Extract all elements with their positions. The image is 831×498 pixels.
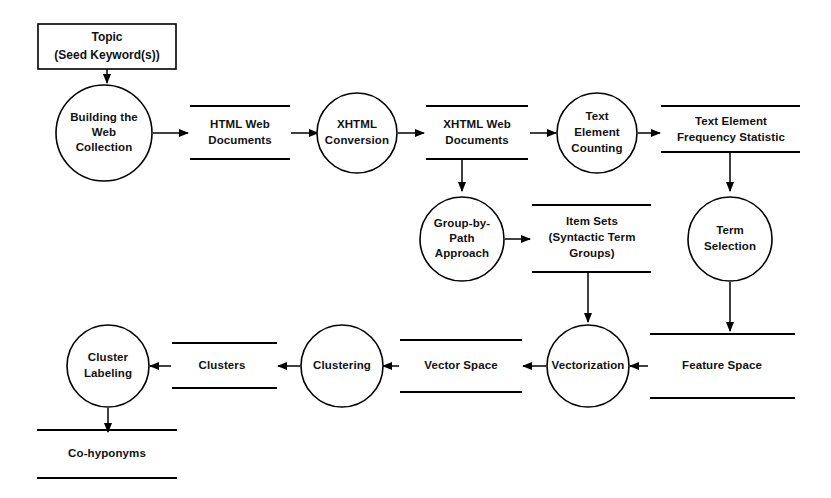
process-building-the-web-collection-line1: Building the — [70, 111, 138, 123]
data-store-item-sets-line2: (Syntactic Term — [549, 231, 636, 243]
process-text-element-counting[interactable]: Text Element Counting — [557, 93, 637, 173]
process-clustering[interactable]: Clustering — [301, 325, 383, 407]
data-store-co-hyponyms-label: Co-hyponyms — [68, 447, 146, 459]
data-store-xhtml-web-documents-line1: XHTML Web — [443, 118, 511, 130]
process-xhtml-conversion-line2: Conversion — [325, 134, 389, 146]
external-entity-topic-line2: (Seed Keyword(s)) — [54, 48, 159, 62]
process-text-element-counting-line3: Counting — [571, 142, 622, 154]
process-term-selection-line2: Selection — [704, 240, 756, 252]
data-store-html-web-documents-line1: HTML Web — [210, 118, 270, 130]
data-store-text-element-frequency-statistic-line2: Frequency Statistic — [677, 131, 785, 143]
data-store-feature-space[interactable]: Feature Space — [650, 334, 795, 398]
data-store-clusters[interactable]: Clusters — [172, 343, 277, 388]
external-entity-topic-line1: Topic — [91, 30, 122, 44]
process-building-the-web-collection[interactable]: Building the Web Collection — [56, 85, 152, 181]
data-store-text-element-frequency-statistic-line1: Text Element — [695, 115, 767, 127]
process-xhtml-conversion-shape — [317, 93, 397, 173]
process-xhtml-conversion-line1: XHTML — [337, 118, 377, 130]
data-store-vector-space-label: Vector Space — [424, 359, 497, 371]
process-vectorization-line1: Vectorization — [552, 359, 625, 371]
process-cluster-labeling-shape — [67, 325, 149, 407]
process-cluster-labeling-line1: Cluster — [88, 351, 129, 363]
process-building-the-web-collection-line3: Collection — [76, 141, 133, 153]
process-group-by-path-approach-line1: Group-by- — [434, 217, 491, 229]
data-store-text-element-frequency-statistic[interactable]: Text Element Frequency Statistic — [661, 106, 800, 152]
diagram-canvas: Topic (Seed Keyword(s)) Building the Web… — [0, 0, 831, 498]
process-cluster-labeling-line2: Labeling — [84, 367, 132, 379]
process-xhtml-conversion[interactable]: XHTML Conversion — [317, 93, 397, 173]
data-store-item-sets[interactable]: Item Sets (Syntactic Term Groups) — [532, 205, 651, 272]
process-group-by-path-approach-line2: Path — [449, 232, 474, 244]
data-store-co-hyponyms[interactable]: Co-hyponyms — [37, 430, 177, 478]
data-store-vector-space[interactable]: Vector Space — [400, 340, 522, 392]
process-text-element-counting-line1: Text — [585, 110, 608, 122]
data-store-html-web-documents[interactable]: HTML Web Documents — [190, 106, 290, 159]
external-entity-topic[interactable]: Topic (Seed Keyword(s)) — [38, 24, 176, 69]
process-term-selection-line1: Term — [716, 224, 744, 236]
data-store-html-web-documents-line2: Documents — [208, 134, 272, 146]
data-store-xhtml-web-documents-line2: Documents — [445, 134, 509, 146]
process-clustering-line1: Clustering — [313, 359, 371, 371]
process-term-selection[interactable]: Term Selection — [688, 197, 772, 281]
process-vectorization[interactable]: Vectorization — [547, 325, 629, 407]
data-store-xhtml-web-documents[interactable]: XHTML Web Documents — [426, 106, 528, 159]
process-group-by-path-approach-line3: Approach — [435, 247, 489, 259]
process-text-element-counting-line2: Element — [574, 126, 620, 138]
data-store-item-sets-line1: Item Sets — [566, 215, 618, 227]
dataflow-diagram: Topic (Seed Keyword(s)) Building the Web… — [0, 0, 831, 498]
process-term-selection-shape — [688, 197, 772, 281]
data-store-clusters-label: Clusters — [199, 359, 246, 371]
process-cluster-labeling[interactable]: Cluster Labeling — [67, 325, 149, 407]
process-building-the-web-collection-line2: Web — [92, 126, 116, 138]
data-store-feature-space-label: Feature Space — [682, 359, 762, 371]
process-group-by-path-approach[interactable]: Group-by- Path Approach — [420, 197, 504, 281]
data-store-item-sets-line3: Groups) — [569, 247, 614, 259]
